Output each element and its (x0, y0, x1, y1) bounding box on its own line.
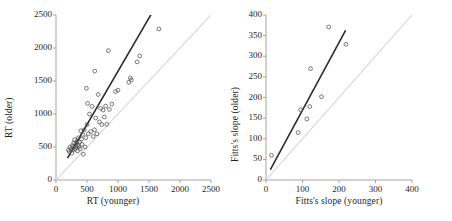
y-tick-label: 100 (222, 133, 262, 143)
panel-rt: RT (younger) RT (older) 0500100015002000… (0, 0, 226, 221)
figure-two-panel-scatter: RT (younger) RT (older) 0500100015002000… (0, 0, 452, 221)
y-tick-label: 300 (222, 50, 262, 60)
x-axis-title-fitts: Fitts's slope (younger) (226, 196, 452, 206)
y-tick-label: 50 (222, 153, 262, 163)
y-tick-label: 0 (222, 174, 262, 184)
y-tick-label: 2000 (12, 42, 52, 52)
y-tick-label: 350 (222, 30, 262, 40)
y-tick-label: 1500 (12, 75, 52, 85)
x-tick-label: 0 (246, 184, 286, 194)
x-tick-label: 2500 (191, 184, 231, 194)
x-axis-title-rt: RT (younger) (0, 196, 226, 206)
y-tick-label: 0 (12, 174, 52, 184)
y-tick-label: 400 (222, 9, 262, 19)
y-tick-label: 150 (222, 112, 262, 122)
x-tick-label: 400 (392, 184, 432, 194)
y-tick-label: 1000 (12, 108, 52, 118)
x-tick-label: 100 (283, 184, 323, 194)
y-axis-title-fitts: Fitts's slope (older) (230, 87, 240, 162)
panel-fitts: Fitts's slope (younger) 0100200300400050… (226, 0, 452, 221)
x-tick-label: 200 (319, 184, 359, 194)
y-tick-label: 250 (222, 71, 262, 81)
y-tick-label: 500 (12, 141, 52, 151)
y-tick-label: 200 (222, 92, 262, 102)
y-tick-label: 2500 (12, 9, 52, 19)
x-tick-label: 300 (356, 184, 396, 194)
